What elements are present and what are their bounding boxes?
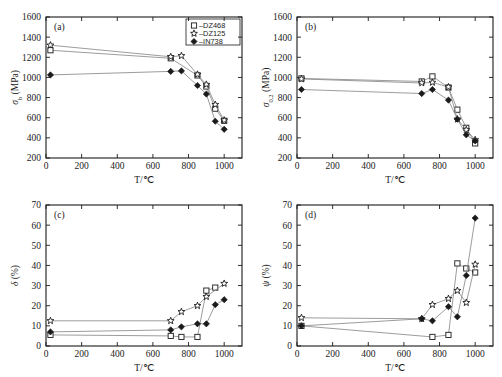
x-axis-title: T/℃ (385, 175, 404, 185)
series-line (50, 284, 224, 321)
y-tick-label: 0 (287, 341, 292, 351)
x-tick-label: 200 (75, 349, 90, 359)
y-tick-label: 70 (32, 200, 42, 210)
series-DZ125 (47, 42, 228, 124)
data-point (178, 324, 184, 330)
data-point (430, 334, 435, 339)
y-tick-label: 800 (27, 93, 42, 103)
series-DZ125 (47, 280, 228, 324)
series-line (301, 264, 475, 318)
series-DZ468 (299, 261, 478, 340)
x-tick-label: 1000 (466, 161, 485, 171)
axis-ticks: 02004006008001000010203040506070 (283, 200, 494, 359)
data-point (298, 314, 305, 321)
legend: –DZ468–DZ125–IN738 (186, 19, 240, 46)
y-tick-label: 1200 (273, 53, 292, 63)
y-tick-label: 1000 (22, 73, 41, 83)
y-tick-label: 50 (283, 241, 293, 251)
subplot-d: 02004006008001000010203040506070(d)T/℃ψ … (251, 188, 502, 376)
plot-canvas: 02004006008001000010203040506070(c)T/℃δ … (0, 188, 251, 376)
y-tick-label: 1400 (22, 33, 41, 43)
x-tick-label: 600 (397, 349, 412, 359)
data-point (168, 68, 174, 74)
x-tick-label: 0 (44, 161, 49, 171)
y-tick-label: 200 (27, 153, 42, 163)
y-axis-title: σb (MPa) (10, 70, 23, 105)
panel-label: (d) (305, 210, 316, 221)
legend-marker (191, 23, 196, 28)
data-point (446, 332, 451, 337)
series-DZ468 (299, 74, 478, 146)
data-point (47, 42, 54, 49)
x-tick-label: 0 (44, 349, 49, 359)
y-tick-label: 1600 (22, 12, 41, 22)
x-tick-label: 200 (75, 161, 90, 171)
data-point (47, 317, 54, 324)
plot-frame (46, 205, 242, 346)
plot-canvas: 02004006008001000010203040506070(d)T/℃ψ … (251, 188, 502, 376)
data-point (419, 90, 425, 96)
figure-root: 0200400600800100020040060080010001200140… (0, 0, 502, 377)
y-axis-title-text: δ (%) (10, 265, 21, 286)
plot-canvas: 0200400600800100020040060080010001200140… (0, 0, 251, 188)
data-point (472, 261, 479, 268)
y-tick-label: 40 (283, 261, 293, 271)
data-point (298, 86, 304, 92)
y-tick-label: 1400 (273, 33, 292, 43)
x-tick-label: 1000 (215, 161, 234, 171)
data-point (168, 327, 174, 333)
y-tick-label: 1000 (273, 73, 292, 83)
y-tick-label: 400 (27, 133, 42, 143)
panel-label: (a) (54, 22, 65, 33)
subplot-b: 0200400600800100020040060080010001200140… (251, 0, 502, 188)
y-tick-label: 800 (278, 93, 293, 103)
x-tick-label: 200 (326, 349, 341, 359)
data-point (455, 261, 460, 266)
y-tick-label: 200 (278, 153, 293, 163)
series-line (50, 71, 224, 129)
x-axis-title: T/℃ (134, 175, 153, 185)
data-point (213, 285, 218, 290)
x-tick-label: 600 (146, 349, 161, 359)
x-axis-title: T/℃ (385, 363, 404, 373)
x-tick-label: 800 (432, 161, 447, 171)
x-tick-label: 1000 (466, 349, 485, 359)
y-axis-title: σ0.2 (MPa) (261, 68, 274, 108)
y-tick-label: 70 (283, 200, 293, 210)
y-tick-label: 60 (32, 221, 42, 231)
y-axis-title: δ (%) (10, 265, 21, 286)
plot-canvas: 0200400600800100020040060080010001200140… (251, 0, 502, 188)
y-tick-label: 20 (32, 301, 42, 311)
y-tick-label: 10 (283, 321, 293, 331)
x-tick-label: 400 (110, 349, 125, 359)
x-tick-label: 800 (432, 349, 447, 359)
series-line (301, 218, 475, 326)
y-tick-label: 600 (278, 113, 293, 123)
data-point (429, 301, 436, 308)
data-point (472, 215, 478, 221)
y-tick-label: 600 (27, 113, 42, 123)
data-point (221, 297, 227, 303)
data-point (212, 302, 218, 308)
x-tick-label: 0 (295, 161, 300, 171)
y-tick-label: 1200 (22, 53, 41, 63)
x-axis-title: T/℃ (134, 363, 153, 373)
y-tick-label: 400 (278, 133, 293, 143)
plot-frame (297, 17, 493, 158)
y-tick-label: 10 (32, 321, 42, 331)
legend-label: –IN738 (199, 37, 223, 46)
x-tick-label: 0 (295, 349, 300, 359)
legend-marker (191, 38, 197, 44)
x-tick-label: 600 (397, 161, 412, 171)
data-point (429, 79, 436, 86)
data-point (195, 334, 200, 339)
legend-marker (191, 30, 198, 37)
data-point (167, 317, 174, 324)
y-axis-title-text: ψ (%) (261, 264, 272, 287)
x-tick-label: 400 (361, 349, 376, 359)
data-point (463, 272, 469, 278)
y-tick-label: 40 (32, 261, 42, 271)
y-tick-label: 30 (283, 281, 293, 291)
data-point (464, 266, 469, 271)
x-tick-label: 600 (146, 161, 161, 171)
